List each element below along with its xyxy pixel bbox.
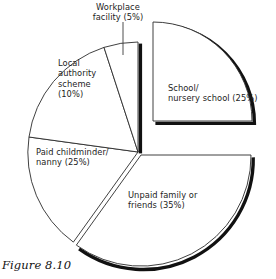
pie-label-school-nursery: School/ nursery school (25%): [168, 83, 272, 104]
pie-slice-school-nursery-group[interactable]: [153, 22, 254, 123]
pie-chart-graphic: [0, 0, 276, 279]
figure-caption: Figure 8.10: [2, 258, 71, 272]
pie-slice-school-nursery[interactable]: [153, 22, 252, 121]
pie-chart-figure: Workplace facility (5%) School/ nursery …: [0, 0, 276, 279]
pie-label-paid-childminder-nanny: Paid childminder/ nanny (25%): [36, 147, 130, 168]
pie-label-unpaid-family-friends: Unpaid family or friends (35%): [128, 190, 224, 211]
pie-label-workplace-facility: Workplace facility (5%): [72, 2, 164, 23]
pie-label-local-authority-scheme: Local authority scheme (10%): [58, 58, 116, 100]
